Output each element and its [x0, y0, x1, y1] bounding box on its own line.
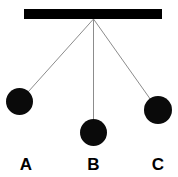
- horizontal-support-bar: [24, 9, 162, 19]
- pendulum-bob-c: [144, 96, 172, 124]
- pendulum-label-a: A: [20, 155, 32, 174]
- pendulum-bob-b: [80, 119, 107, 146]
- pendulum-bob-a: [6, 88, 33, 115]
- pendulum-diagram-canvas: A B C: [0, 0, 178, 177]
- pendulum-label-c: C: [152, 155, 164, 174]
- pendulum-label-b: B: [87, 155, 99, 174]
- diagram-background: [0, 0, 178, 177]
- pendulum-diagram: A B C: [0, 0, 178, 177]
